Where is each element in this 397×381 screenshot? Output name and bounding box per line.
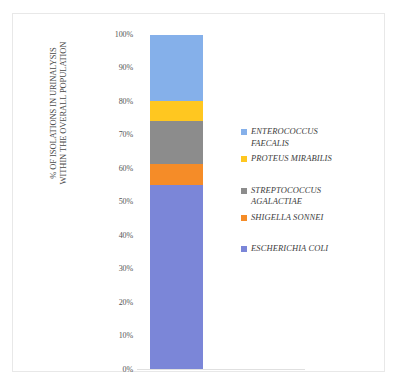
y-axis-title-line-1: % OF ISOLATIONS IN URINALYSIS bbox=[48, 47, 58, 178]
bar-segment-proteus-mirabilis[interactable] bbox=[150, 101, 203, 121]
chart-frame: % OF ISOLATIONS IN URINALYSIS WITHIN THE… bbox=[12, 13, 385, 372]
y-tick-80: 80% bbox=[91, 98, 133, 106]
y-tick-20: 20% bbox=[91, 299, 133, 307]
y-tick-100: 100% bbox=[91, 31, 133, 39]
y-tick-50: 50% bbox=[91, 198, 133, 206]
y-tick-40: 40% bbox=[91, 232, 133, 240]
legend-label: STREPTOCOCCUS AGALACTIAE bbox=[251, 185, 321, 208]
legend-swatch-icon bbox=[241, 188, 247, 194]
y-tick-90: 90% bbox=[91, 64, 133, 72]
legend-swatch-icon bbox=[241, 246, 247, 252]
y-tick-30: 30% bbox=[91, 265, 133, 273]
legend-label: PROTEUS MIRABILIS bbox=[251, 153, 332, 165]
y-tick-10: 10% bbox=[91, 332, 133, 340]
legend-label: ENTEROCOCCUS FAECALIS bbox=[251, 126, 318, 149]
stacked-bar[interactable] bbox=[150, 35, 203, 369]
legend-item-enterococcus-faecalis[interactable]: ENTEROCOCCUS FAECALIS bbox=[241, 126, 391, 149]
legend-swatch-icon bbox=[241, 215, 247, 221]
legend-item-shigella-sonnei[interactable]: SHIGELLA SONNEI bbox=[241, 212, 391, 224]
legend-label: SHIGELLA SONNEI bbox=[251, 212, 323, 224]
y-tick-60: 60% bbox=[91, 165, 133, 173]
chart-legend: ENTEROCOCCUS FAECALIS PROTEUS MIRABILIS … bbox=[241, 126, 391, 257]
bar-segment-streptococcus-agalactiae[interactable] bbox=[150, 121, 203, 164]
legend-item-streptococcus-agalactiae[interactable]: STREPTOCOCCUS AGALACTIAE bbox=[241, 185, 391, 208]
y-tick-0: 0% bbox=[91, 366, 133, 374]
bar-segment-escherichia-coli[interactable] bbox=[150, 185, 203, 369]
legend-item-proteus-mirabilis[interactable]: PROTEUS MIRABILIS bbox=[241, 153, 391, 165]
legend-label: ESCHERICHIA COLI bbox=[251, 243, 328, 255]
bar-segment-shigella-sonnei[interactable] bbox=[150, 164, 203, 185]
axis-baseline bbox=[137, 369, 305, 370]
bar-segment-enterococcus-faecalis[interactable] bbox=[150, 35, 203, 101]
y-axis-title: % OF ISOLATIONS IN URINALYSIS WITHIN THE… bbox=[41, 0, 75, 228]
y-tick-70: 70% bbox=[91, 131, 133, 139]
legend-swatch-icon bbox=[241, 156, 247, 162]
legend-swatch-icon bbox=[241, 129, 247, 135]
legend-item-escherichia-coli[interactable]: ESCHERICHIA COLI bbox=[241, 243, 391, 255]
y-axis-title-line-2: WITHIN THE OVERALL POPULATION bbox=[58, 42, 68, 185]
